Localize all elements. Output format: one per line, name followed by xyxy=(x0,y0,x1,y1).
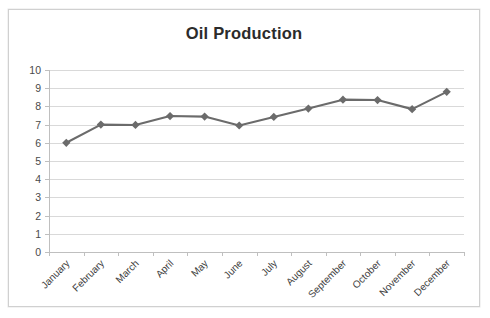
x-axis-tick-label: August xyxy=(284,257,314,287)
data-point-marker xyxy=(97,121,105,129)
data-point-marker xyxy=(373,96,381,104)
x-axis-tick-label: October xyxy=(350,257,383,290)
y-axis-tick-label: 1 xyxy=(35,228,41,240)
x-axis-tick-label: May xyxy=(189,258,210,279)
series-markers-group xyxy=(62,88,451,147)
x-axis-tick-label: June xyxy=(222,257,245,280)
data-point-marker xyxy=(131,121,139,129)
y-axis-tick-label: 10 xyxy=(29,64,41,76)
x-axis-tick-label: September xyxy=(306,257,349,300)
y-axis-tick-label: 2 xyxy=(35,210,41,222)
data-point-marker xyxy=(62,139,70,147)
data-point-marker xyxy=(201,112,209,120)
x-axis-tick-label: April xyxy=(154,258,176,280)
gridlines-group xyxy=(49,71,464,253)
x-axis-tick-labels: JanuaryFebruaryMarchAprilMayJuneJulyAugu… xyxy=(39,257,453,300)
y-axis-tick-label: 3 xyxy=(35,191,41,203)
x-axis-tick-label: January xyxy=(39,258,72,291)
x-axis-tick-label: March xyxy=(113,258,140,285)
data-point-marker xyxy=(339,96,347,104)
y-axis-tick-label: 5 xyxy=(35,155,41,167)
y-axis-tick-label: 7 xyxy=(35,119,41,131)
data-point-marker xyxy=(304,104,312,112)
x-axis-tick-label: February xyxy=(70,258,106,294)
y-axis-tick-label: 4 xyxy=(35,173,41,185)
x-axis-tick-label: July xyxy=(259,258,279,278)
y-tick-marks-group xyxy=(45,71,49,253)
y-axis-tick-label: 6 xyxy=(35,137,41,149)
line-chart-plot: 012345678910 JanuaryFebruaryMarchAprilMa… xyxy=(9,10,481,308)
y-axis-tick-label: 9 xyxy=(35,82,41,94)
y-axis-tick-labels: 012345678910 xyxy=(29,64,41,258)
data-point-marker xyxy=(235,121,243,129)
data-point-marker xyxy=(270,113,278,121)
series-line-oil-production xyxy=(66,92,446,143)
y-axis-tick-label: 0 xyxy=(35,246,41,258)
data-point-marker xyxy=(166,112,174,120)
x-axis-tick-label: December xyxy=(412,257,453,298)
chart-frame: Oil Production 012345678910 JanuaryFebru… xyxy=(8,9,480,307)
y-axis-tick-label: 8 xyxy=(35,100,41,112)
x-axis-tick-label: November xyxy=(377,257,418,298)
